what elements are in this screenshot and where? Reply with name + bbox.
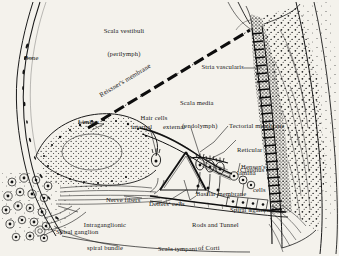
label-hair-cells-internal: internal bbox=[131, 123, 152, 131]
label-rods-and-tunnel-of-corti: Rods and Tunnel of Corti bbox=[192, 206, 239, 256]
label-nerve-fibers: Nerve fibers bbox=[106, 196, 140, 204]
label-scala-vestibuli-line1: Scala vestibuli bbox=[86, 27, 162, 35]
label-rods-and-tunnel-line1: Rods and Tunnel bbox=[192, 221, 239, 229]
cochlea-diagram-figure: Scala vestibuli (perilymph) Bone Reissne… bbox=[0, 0, 339, 256]
label-scala-tympani: Scala tympani (perilymph) bbox=[158, 230, 198, 256]
label-scala-media-line1: Scala media bbox=[180, 99, 218, 107]
label-rods-and-tunnel-line2: of Corti bbox=[192, 244, 239, 252]
label-stria-vascularis: Stria vascularis bbox=[178, 63, 244, 71]
label-spiral-ganglion: Spiral ganglion bbox=[56, 228, 98, 236]
label-hair-cells: Hair cells bbox=[131, 114, 177, 122]
label-scala-vestibuli: Scala vestibuli (perilymph) bbox=[86, 12, 162, 73]
label-deiters-cells: Deiters' cells bbox=[149, 200, 185, 208]
label-scala-vestibuli-line2: (perilymph) bbox=[86, 50, 162, 58]
label-limbus: Limbus bbox=[78, 118, 99, 126]
label-hensens-cells: Hensen's cells bbox=[241, 148, 266, 209]
label-claudius: Claudius bbox=[240, 166, 265, 174]
label-intraganglionic-line2: spiral bundle bbox=[74, 244, 136, 252]
label-tectorial-membrane: Tectorial membrane bbox=[229, 122, 284, 130]
label-scala-tympani-line1: Scala tympani bbox=[158, 245, 198, 253]
label-basilar-membrane: Basilar membrane bbox=[196, 190, 246, 198]
label-scala-media: Scala media (endolymph) bbox=[180, 84, 218, 145]
label-hair-cells-external: external bbox=[163, 123, 185, 131]
label-bone: Bone bbox=[24, 54, 38, 62]
label-scala-media-line2: (endolymph) bbox=[180, 122, 218, 130]
